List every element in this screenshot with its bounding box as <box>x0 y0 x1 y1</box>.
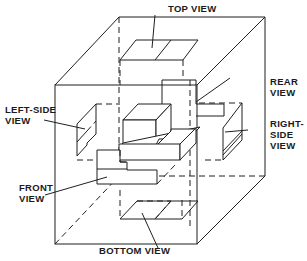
bottom-view-projection <box>120 190 198 219</box>
top-view-projection <box>120 40 198 85</box>
label-rear-view: REAR VIEW <box>270 76 298 98</box>
label-right-side-view: RIGHT- SIDE VIEW <box>270 118 304 151</box>
object-isometric <box>97 104 200 184</box>
label-left-side-view: LEFT-SIDE VIEW <box>5 104 56 126</box>
glass-box-diagram: TOP VIEW REAR VIEW LEFT-SIDE VIEW RIGHT-… <box>0 0 307 261</box>
label-bottom-view: BOTTOM VIEW <box>99 245 170 256</box>
label-front-view: FRONT VIEW <box>19 182 53 204</box>
label-top-view: TOP VIEW <box>168 3 217 14</box>
glass-box-drawing <box>0 0 307 261</box>
